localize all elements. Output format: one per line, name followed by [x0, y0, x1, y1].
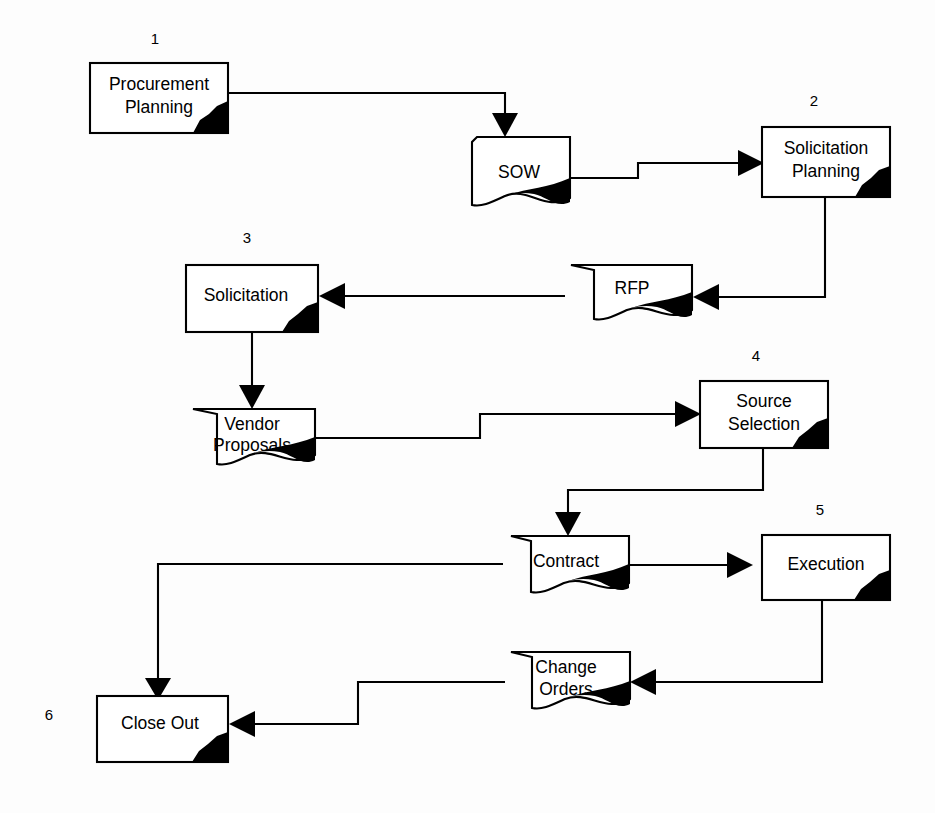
arrow-head-icon: [492, 113, 518, 137]
edge-change-orders-to-close-out: [229, 682, 505, 737]
node-label-line1: RFP: [615, 278, 650, 298]
node-label-line2: Planning: [125, 97, 193, 117]
arrow-head-icon: [727, 552, 753, 578]
node-label-line1: Close Out: [121, 713, 199, 733]
node-label-line1: SOW: [498, 162, 540, 182]
node-change-orders[interactable]: Change Orders: [511, 652, 630, 709]
node-label-line1: Change: [535, 657, 596, 677]
node-vendor-proposals[interactable]: Vendor Proposals: [193, 409, 315, 465]
procurement-flowchart: Procurement Planning 1 SOW Solicitation …: [0, 0, 935, 813]
arrow-head-icon: [319, 283, 345, 309]
step-number-1: 1: [151, 30, 159, 47]
arrow-head-icon: [693, 284, 719, 310]
arrow-head-icon: [738, 150, 764, 176]
node-label-line1: Vendor: [224, 414, 280, 434]
node-label-line1: Contract: [533, 551, 599, 571]
node-label-line2: Proposals: [213, 435, 291, 455]
node-execution[interactable]: Execution 5: [762, 501, 890, 600]
node-label-line2: Planning: [792, 161, 860, 181]
edge-rfp-to-solicitation: [319, 283, 565, 309]
step-number-5: 5: [816, 501, 824, 518]
edge-solicitation-to-vendor-proposals: [239, 332, 265, 409]
node-label-line1: Procurement: [109, 74, 209, 94]
edge-solicitation-planning-to-rfp: [693, 197, 825, 310]
node-sow[interactable]: SOW: [472, 137, 570, 206]
edge-planning-to-sow: [228, 93, 518, 137]
node-solicitation[interactable]: Solicitation 3: [186, 229, 318, 332]
flowchart-canvas: Procurement Planning 1 SOW Solicitation …: [0, 0, 935, 813]
edge-source-selection-to-contract: [555, 448, 763, 536]
step-number-2: 2: [810, 92, 818, 109]
edge-execution-to-change-orders: [630, 600, 822, 695]
edge-sow-to-solicitation-planning: [570, 150, 764, 178]
step-number-3: 3: [243, 229, 251, 246]
edge-contract-to-close-out: [145, 564, 503, 700]
node-contract[interactable]: Contract: [511, 536, 629, 593]
node-label-line1: Solicitation: [784, 138, 869, 158]
node-solicitation-planning[interactable]: Solicitation Planning 2: [762, 92, 890, 197]
node-source-selection[interactable]: Source Selection 4: [700, 347, 828, 448]
node-label-line1: Source: [736, 391, 791, 411]
step-number-4: 4: [752, 347, 760, 364]
node-label-line2: Orders: [539, 679, 593, 699]
arrow-head-icon: [555, 512, 581, 536]
node-procurement-planning[interactable]: Procurement Planning 1: [90, 30, 228, 133]
node-close-out[interactable]: Close Out 6: [45, 696, 228, 762]
edge-contract-to-execution: [629, 552, 753, 578]
arrow-head-icon: [675, 401, 701, 427]
node-label-line1: Solicitation: [204, 285, 289, 305]
step-number-6: 6: [45, 706, 53, 723]
arrow-head-icon: [229, 711, 255, 737]
arrow-head-icon: [630, 669, 656, 695]
node-label-line1: Execution: [788, 554, 865, 574]
arrow-head-icon: [239, 385, 265, 409]
node-label-line2: Selection: [728, 414, 800, 434]
node-rfp[interactable]: RFP: [571, 265, 692, 320]
edge-vendor-proposals-to-source-selection: [315, 401, 701, 438]
